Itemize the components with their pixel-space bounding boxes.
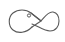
icon-canvas [0,0,65,42]
fish-knot-icon [0,0,65,42]
